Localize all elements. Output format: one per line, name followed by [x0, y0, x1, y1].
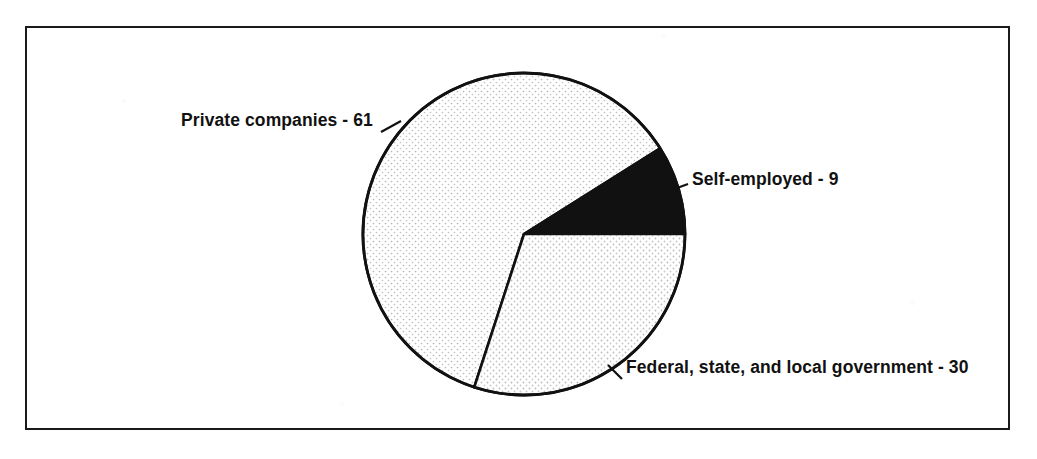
pie-label-self-employed: Self-employed - 9	[692, 169, 839, 190]
leader-line-private-companies	[381, 121, 401, 132]
pie-label-federal-state-local: Federal, state, and local government - 3…	[626, 357, 969, 378]
pie-chart-graphic	[0, 0, 1037, 459]
figure-root: Private companies - 61 Self-employed - 9…	[0, 0, 1037, 459]
pie-label-private-companies: Private companies - 61	[181, 110, 373, 131]
